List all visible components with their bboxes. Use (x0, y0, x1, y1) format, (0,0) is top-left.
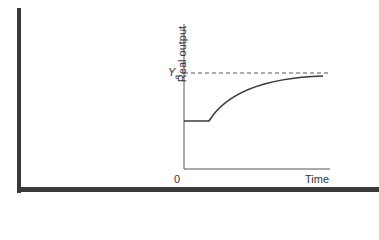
ye-label: Ye (168, 66, 179, 80)
x-axis-label: Time (305, 173, 329, 185)
origin-label: 0 (174, 173, 180, 185)
output-path-curve (184, 76, 323, 121)
